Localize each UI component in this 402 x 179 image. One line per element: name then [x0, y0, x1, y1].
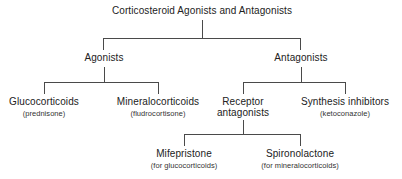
connector-agonists-stem [104, 67, 105, 82]
node-spironolactone-sublabel: (for mineralocorticoids) [261, 160, 338, 171]
node-antagonists: Antagonists [274, 52, 327, 63]
connector-root-bus [103, 38, 301, 39]
node-synthesis-inhibitors-sublabel: (ketoconazole) [301, 108, 389, 119]
node-agonists-label: Agonists [84, 52, 123, 63]
node-glucocorticoids-label: Glucocorticoids [9, 96, 79, 107]
node-mifepristone-sublabel: (for glucocorticoids) [151, 160, 218, 171]
connector-antagonists-bus [243, 82, 345, 83]
node-root-label: Corticosteroid Agonists and Antagonists [112, 5, 292, 16]
node-glucocorticoids-sublabel: (prednisone) [9, 108, 79, 119]
node-root: Corticosteroid Agonists and Antagonists [112, 5, 292, 16]
node-antagonists-label: Antagonists [274, 52, 327, 63]
connector-receptor-antagonists-bus [184, 134, 301, 135]
connector-drop-receptor-antagonists [243, 82, 244, 94]
diagram-canvas: Corticosteroid Agonists and Antagonists … [0, 0, 402, 179]
connector-drop-synthesis-inhibitors [345, 82, 346, 94]
node-mifepristone-label: Mifepristone [151, 148, 218, 159]
connector-drop-mineralocorticoids [158, 82, 159, 94]
connector-drop-mifepristone [184, 134, 185, 146]
connector-drop-agonists [103, 38, 104, 50]
connector-agonists-bus [44, 82, 159, 83]
node-glucocorticoids: Glucocorticoids (prednisone) [9, 96, 79, 119]
node-mineralocorticoids-sublabel: (fludrocortisone) [117, 108, 199, 119]
node-mineralocorticoids: Mineralocorticoids (fludrocortisone) [117, 96, 199, 119]
connector-drop-spironolactone [300, 134, 301, 146]
node-mifepristone: Mifepristone (for glucocorticoids) [151, 148, 218, 171]
node-synthesis-inhibitors-label: Synthesis inhibitors [301, 96, 389, 107]
node-receptor-antagonists-label-line1: Receptor [217, 96, 269, 107]
node-receptor-antagonists: Receptor antagonists [217, 96, 269, 118]
node-synthesis-inhibitors: Synthesis inhibitors (ketoconazole) [301, 96, 389, 119]
connector-drop-glucocorticoids [44, 82, 45, 94]
connector-drop-antagonists [300, 38, 301, 50]
node-mineralocorticoids-label: Mineralocorticoids [117, 96, 199, 107]
connector-receptor-antagonists-stem [243, 120, 244, 134]
connector-antagonists-stem [301, 67, 302, 82]
node-receptor-antagonists-label-line2: antagonists [217, 107, 269, 118]
node-agonists: Agonists [84, 52, 123, 63]
node-spironolactone-label: Spironolactone [261, 148, 338, 159]
node-spironolactone: Spironolactone (for mineralocorticoids) [261, 148, 338, 171]
connector-root-stem [202, 20, 203, 38]
